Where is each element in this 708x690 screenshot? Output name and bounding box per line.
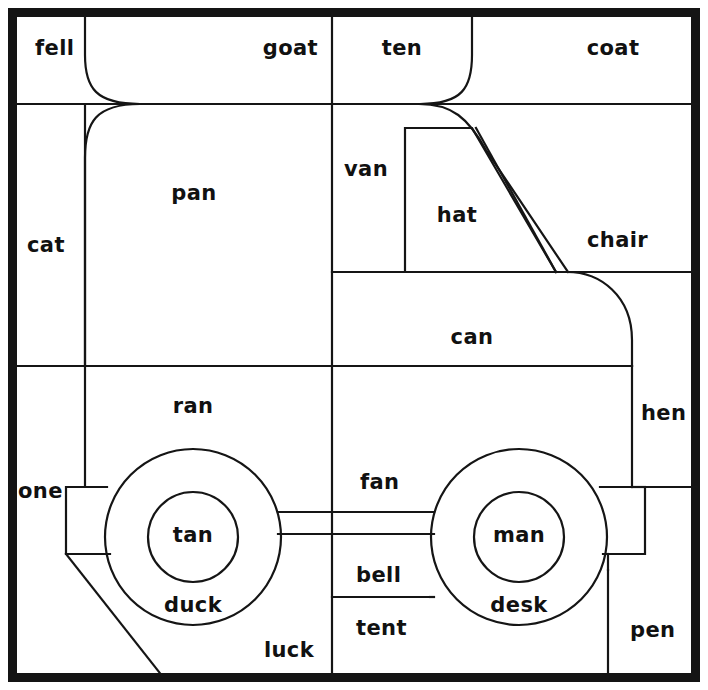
word-desk: desk [490, 593, 548, 617]
word-bell: bell [356, 563, 401, 587]
puzzle-canvas: fell goat ten coat pan van hat chair cat… [0, 0, 708, 690]
word-goat: goat [263, 36, 318, 60]
word-tan: tan [173, 523, 213, 547]
word-ten: ten [382, 36, 422, 60]
word-fell: fell [35, 36, 74, 60]
word-cat: cat [27, 233, 65, 257]
word-man: man [493, 523, 545, 547]
word-pan: pan [171, 181, 216, 205]
word-duck: duck [164, 593, 223, 617]
word-pen: pen [630, 618, 675, 642]
word-tent: tent [356, 616, 407, 640]
word-puzzle-picture: fell goat ten coat pan van hat chair cat… [0, 0, 708, 690]
word-chair: chair [587, 228, 648, 252]
word-one: one [18, 479, 63, 503]
word-fan: fan [360, 470, 399, 494]
word-luck: luck [264, 638, 315, 662]
word-hen: hen [641, 401, 686, 425]
word-coat: coat [587, 36, 640, 60]
word-can: can [451, 325, 494, 349]
word-ran: ran [173, 394, 214, 418]
word-van: van [344, 157, 388, 181]
word-hat: hat [437, 203, 477, 227]
